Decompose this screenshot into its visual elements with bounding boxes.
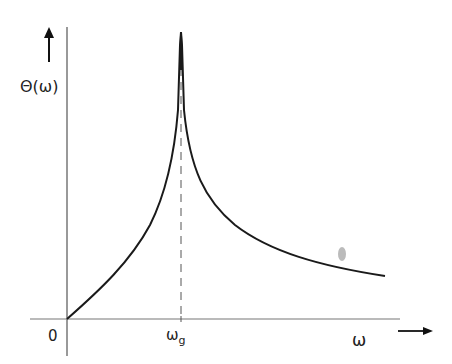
y-arrow-icon xyxy=(44,27,54,62)
theta-curve xyxy=(67,32,385,319)
x-axis-label: ω xyxy=(352,330,366,350)
omega-g-main: ω xyxy=(166,326,179,344)
origin-label: 0 xyxy=(48,327,58,345)
plot-canvas xyxy=(0,0,452,364)
omega-g-subscript: g xyxy=(179,334,186,347)
x-arrow-icon xyxy=(398,327,433,335)
omega-g-label: ωg xyxy=(166,326,186,347)
smudge-mark xyxy=(338,247,346,261)
y-axis-label: Θ(ω) xyxy=(20,77,58,96)
